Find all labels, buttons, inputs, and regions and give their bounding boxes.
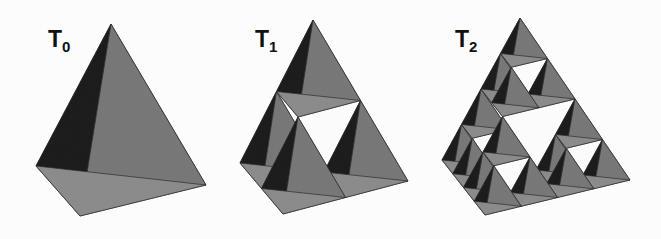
figure-label-t0: T0 — [48, 28, 70, 51]
figure-label-t2: T2 — [455, 28, 477, 51]
tetrahedron-unit-T2-apex-apex — [501, 18, 548, 67]
figure-label-t1: T1 — [255, 28, 277, 51]
figure-root: T0 T1 T2 — [0, 0, 661, 239]
label-t0-base: T — [48, 26, 62, 52]
tetrahedron-unit-T1-apex — [277, 20, 361, 117]
label-t2-base: T — [455, 26, 469, 52]
tetrahedra-layer — [36, 18, 630, 216]
label-t0-subscript: 0 — [62, 38, 70, 55]
label-t2-subscript: 2 — [469, 38, 477, 55]
label-t1-base: T — [255, 26, 269, 52]
label-t1-subscript: 1 — [269, 38, 277, 55]
sierpinski-tetrahedron-figure — [0, 0, 661, 239]
